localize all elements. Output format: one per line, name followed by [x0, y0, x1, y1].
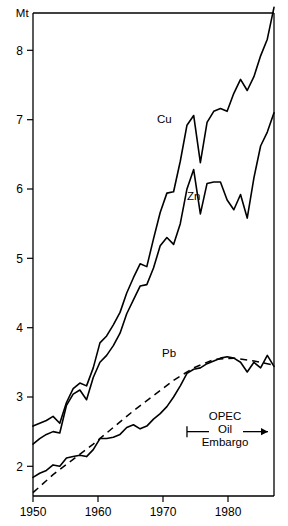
x-tick-label-1960: 1960 [85, 505, 112, 519]
x-axis-ticks [33, 496, 228, 502]
y-tick-label-5: 5 [16, 252, 23, 266]
x-tick-label-1980: 1980 [215, 505, 242, 519]
opec-annotation-line-2: Oil [218, 423, 232, 435]
series-label-cu: Cu [157, 113, 172, 125]
series-line-pb-trend [33, 358, 274, 493]
series-label-pb: Pb [162, 347, 176, 359]
y-tick-label-3: 3 [16, 390, 23, 404]
y-axis-unit-label: Mt [16, 7, 30, 19]
y-tick-label-4: 4 [16, 321, 23, 335]
series-label-zn: Zn [187, 190, 200, 202]
opec-annotation-line-3: Embargo [202, 436, 249, 448]
chart-figure: Mt 8 7 6 5 4 3 2 1950 1960 1970 1980 Cu … [0, 0, 288, 526]
opec-annotation-line-1: OPEC [209, 410, 242, 422]
series-line-zn [33, 113, 274, 444]
line-chart: Mt 8 7 6 5 4 3 2 1950 1960 1970 1980 Cu … [0, 0, 288, 526]
x-tick-label-1970: 1970 [150, 505, 177, 519]
y-tick-label-8: 8 [16, 44, 23, 58]
series-inline-labels: Cu Zn Pb [157, 113, 200, 359]
y-axis-ticks [27, 50, 33, 466]
y-tick-label-7: 7 [16, 113, 23, 127]
series-line-cu [33, 7, 274, 426]
opec-annotation-text: OPEC Oil Embargo [202, 410, 249, 448]
y-tick-label-2: 2 [16, 460, 23, 474]
opec-arrow-head-icon [261, 428, 268, 435]
y-tick-label-6: 6 [16, 182, 23, 196]
x-tick-label-1950: 1950 [20, 505, 47, 519]
